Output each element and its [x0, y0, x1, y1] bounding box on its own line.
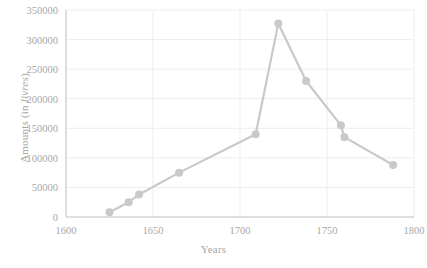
data-point-marker: [175, 169, 183, 177]
data-series: [106, 20, 398, 217]
grid-lines: [66, 10, 414, 217]
data-point-marker: [274, 20, 282, 28]
data-point-marker: [135, 191, 143, 199]
data-point-marker: [106, 208, 114, 216]
data-point-marker: [389, 161, 397, 169]
data-point-marker: [337, 121, 345, 129]
data-point-marker: [302, 77, 310, 85]
series-line: [110, 24, 394, 213]
data-point-marker: [340, 133, 348, 141]
data-point-marker: [125, 198, 133, 206]
plot-area: [0, 0, 427, 268]
line-chart: Amounts (in livres) Years 05000010000015…: [0, 0, 427, 268]
data-point-marker: [252, 130, 260, 138]
